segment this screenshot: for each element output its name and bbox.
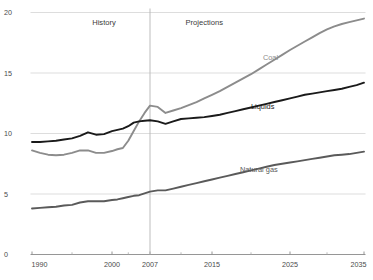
x-tick-label-1990: 1990 (32, 260, 48, 269)
y-tick-label-10: 10 (4, 129, 12, 138)
y-tick-label-0: 0 (4, 250, 8, 259)
y-tick-label-5: 5 (4, 190, 8, 199)
chart-container: 05101520 199020002007201520252035 CoalLi… (0, 0, 373, 280)
y-tick-label-15: 15 (4, 69, 12, 78)
energy-consumption-line-chart: 05101520 199020002007201520252035 CoalLi… (0, 0, 373, 280)
series-label-natural-gas: Natural gas (240, 165, 278, 174)
annotation-history: History (92, 18, 116, 27)
x-tick-label-2007: 2007 (142, 260, 158, 269)
x-tick-label-2000: 2000 (104, 260, 120, 269)
y-tick-label-20: 20 (4, 8, 12, 17)
x-tick-label-2025: 2025 (282, 260, 298, 269)
x-tick-label-2035: 2035 (351, 260, 367, 269)
x-tick-label-2015: 2015 (204, 260, 220, 269)
annotation-projections: Projections (185, 18, 223, 27)
series-label-liquids: Liquids (251, 102, 275, 111)
series-label-coal: Coal (263, 53, 279, 62)
